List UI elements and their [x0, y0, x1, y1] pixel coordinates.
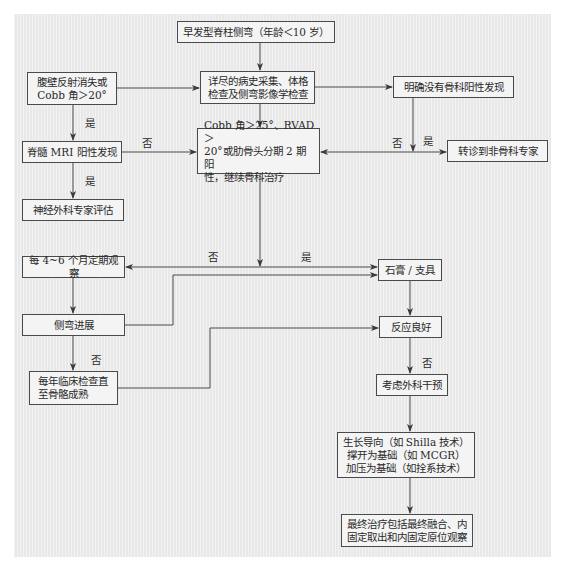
node-start: 早发型脊柱侧弯（年龄＜10 岁）: [177, 21, 335, 43]
edge-label-response-no: 否: [422, 357, 432, 369]
edge-label-observe-no: 否: [208, 251, 218, 263]
edge-label-cobb-refer-yes: 是: [423, 135, 433, 147]
edge-label-cast-yes: 是: [301, 251, 311, 263]
node-good-response: 反应良好: [379, 316, 442, 338]
edge-label-mri-cobb-no: 否: [142, 137, 152, 149]
edge-label-cobb-refer-no: 否: [392, 137, 402, 149]
node-observe-4-6-months: 每 4~6 个月定期观察: [22, 256, 125, 278]
edge-label-progression-no: 否: [91, 354, 101, 366]
node-cobb-criteria: Cobb 角＞25°、RVAD＞ 20°或肋骨头分期 2 期阳 性，继续骨科治疗: [197, 128, 320, 174]
node-cast-brace: 石膏 / 支具: [378, 259, 442, 281]
node-annual-exam: 每年临床检查直 至骨骼成熟: [29, 371, 118, 405]
node-consider-surgery: 考虑外科干预: [376, 374, 448, 396]
node-surgical-options: 生长导向（如 Shilla 技术） 撑开为基础（如 MCGR） 加压为基础（如拴…: [337, 432, 475, 478]
node-neurosurgery-eval: 神经外科专家评估: [22, 199, 124, 221]
node-history-exam: 详尽的病史采集、体格 检查及侧弯影像学检查: [200, 71, 315, 104]
node-final-treatment: 最终治疗包括最终融合、内 固定取出和内固定原位观察: [341, 514, 473, 547]
node-curve-progression: 侧弯进展: [22, 314, 125, 336]
node-mri-positive: 脊髓 MRI 阳性发现: [22, 141, 122, 163]
node-reflex-cobb: 腹壁反射消失或 Cobb 角＞20°: [27, 72, 117, 105]
edge-label-mri-neuro-yes: 是: [85, 175, 95, 187]
node-refer-non-ortho: 转诊到非骨科专家: [447, 140, 548, 162]
node-no-ortho-finding: 明确没有骨科阳性发现: [393, 76, 514, 98]
edge-label-reflex-mri-yes: 是: [85, 117, 95, 129]
